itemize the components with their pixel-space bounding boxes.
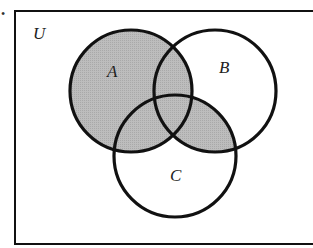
marker-dot: • xyxy=(1,7,5,21)
set-a-label: A xyxy=(106,62,118,81)
set-c-label: C xyxy=(170,166,182,185)
set-b-label: B xyxy=(219,58,230,77)
venn-diagram: • U A B C xyxy=(0,0,313,248)
universe-label: U xyxy=(33,24,47,43)
